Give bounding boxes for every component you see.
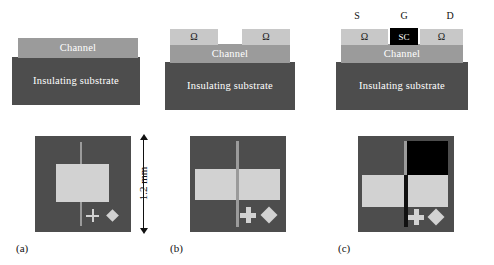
panel-a-channel: Channel: [18, 38, 138, 58]
panel-a-topview: [35, 136, 131, 232]
panel-a-channel-label: Channel: [18, 43, 138, 54]
panel-b-substrate-label: Insulating substrate: [165, 81, 295, 92]
panel-b-ohmic-right-label: Ω: [242, 32, 290, 42]
panel-c-semiconductor-gate: SC: [390, 28, 418, 45]
panel-a-cross-marker: [86, 209, 99, 222]
panel-b-substrate: Insulating substrate: [165, 62, 295, 110]
terminal-gate-label: G: [394, 11, 414, 21]
terminal-source-label: S: [347, 11, 367, 21]
panel-a-caption: (a): [16, 243, 28, 254]
panel-a-diamond-marker: [106, 209, 119, 222]
panel-c-topview: [358, 136, 454, 232]
panel-b-ohmic-contact-right: Ω: [242, 29, 290, 45]
panel-b: Insulating substrate Channel Ω Ω (b): [150, 0, 315, 265]
panel-c-channel-label: Channel: [341, 48, 463, 59]
panel-b-diamond-marker: [261, 207, 278, 224]
panel-c-cross-marker: [408, 209, 424, 225]
panel-b-channel-label: Channel: [170, 48, 290, 59]
panel-c-channel: Channel: [341, 44, 463, 63]
panel-b-cross-marker: [240, 207, 256, 223]
panel-c-substrate: Insulating substrate: [336, 62, 468, 110]
panel-c-ohmic-right-label: Ω: [420, 32, 463, 42]
panel-b-channel: Channel: [170, 44, 290, 63]
panel-c-semiconductor-gate-pad: [407, 141, 448, 175]
panel-b-ohmic-left-label: Ω: [170, 32, 218, 42]
panel-c-substrate-label: Insulating substrate: [336, 81, 468, 92]
panel-b-ohmic-contact-left: Ω: [170, 29, 218, 45]
panel-b-topview: [190, 136, 286, 232]
panel-b-ohmic-pad-right: [239, 169, 280, 200]
dimension-arrow-top: [140, 134, 148, 140]
panel-c-ohmic-pad-right: [408, 175, 448, 207]
dimension-label: 1.2 mm: [138, 167, 149, 201]
dimension-arrow-bottom: [140, 228, 148, 234]
panel-c-ohmic-contact-left: Ω: [341, 29, 388, 45]
panel-c-ohmic-contact-right: Ω: [420, 29, 463, 45]
terminal-drain-label: D: [440, 11, 460, 21]
panel-c-caption: (c): [338, 243, 350, 254]
panel-c: S G D Insulating substrate Channel Ω SC …: [320, 0, 494, 265]
panel-c-ohmic-left-label: Ω: [341, 32, 388, 42]
panel-b-ohmic-pad-left: [195, 169, 236, 200]
panel-c-gate-label: SC: [390, 32, 418, 41]
panel-a-substrate-label: Insulating substrate: [12, 76, 140, 87]
panel-a: Insulating substrate Channel 1.2 mm (a): [0, 0, 150, 265]
figure-device-fabrication-stages: Insulating substrate Channel 1.2 mm (a) …: [0, 0, 494, 265]
panel-b-caption: (b): [170, 243, 183, 254]
panel-a-channel-pad: [56, 164, 109, 202]
panel-c-ohmic-pad-left: [362, 175, 404, 207]
panel-a-substrate: Insulating substrate: [12, 57, 140, 105]
panel-c-diamond-marker: [428, 209, 445, 226]
